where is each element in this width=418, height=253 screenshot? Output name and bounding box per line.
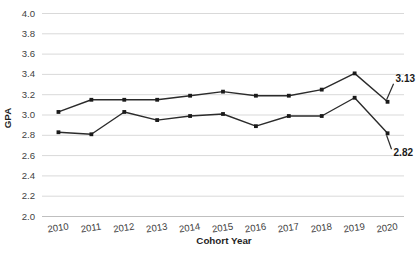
y-axis-tick-label: 2.8 [22,129,35,140]
data-point-marker [89,98,93,102]
x-axis-tick-label: 2014 [178,221,201,235]
data-point-marker [320,114,324,118]
data-point-marker [254,124,258,128]
x-axis-tick-label: 2020 [376,221,399,235]
annotation-leader-line [387,84,394,100]
data-point-marker [155,98,159,102]
y-axis-tick-label: 2.0 [22,211,35,222]
y-axis-tick-label: 2.2 [22,190,35,201]
x-axis-tick-label: 2011 [80,221,102,235]
y-axis-tick-label: 2.6 [22,150,35,161]
x-axis-tick-label: 2015 [211,221,234,235]
data-point-marker [221,90,225,94]
x-axis-tick-label: 2017 [277,221,300,235]
y-axis-tick-label: 3.0 [22,109,35,120]
data-point-marker [320,88,324,92]
data-point-marker [353,96,357,100]
y-axis-tick-label: 4.0 [22,8,35,19]
y-axis-tick-label: 2.4 [22,170,36,181]
data-point-marker [353,71,357,75]
data-point-marker [57,110,61,114]
data-point-marker [89,132,93,136]
x-axis-tick-label: 2013 [145,221,168,235]
data-series-group [57,71,390,136]
data-point-marker [254,94,258,98]
data-point-marker [221,112,225,116]
x-axis-tick-labels: 2010201120122013201420152016201720182019… [47,221,399,235]
data-point-marker [57,130,61,134]
x-axis-tick-label: 2018 [310,221,333,235]
chart-canvas: 4.03.83.63.43.23.02.82.62.42.22.0 201020… [0,0,418,253]
data-point-marker [287,94,291,98]
data-point-marker [386,131,390,135]
data-point-marker [122,98,126,102]
y-axis-tick-labels: 4.03.83.63.43.23.02.82.62.42.22.0 [22,8,36,222]
y-axis-tick-label: 3.8 [22,28,35,39]
x-axis-tick-label: 2012 [112,221,135,235]
y-axis-tick-label: 3.4 [22,68,36,79]
gpa-by-cohort-year-line-chart: 4.03.83.63.43.23.02.82.62.42.22.0 201020… [0,0,418,253]
data-point-marker [188,94,192,98]
lower-endpoint-label: 2.82 [394,147,414,158]
y-axis-tick-label: 3.2 [22,89,35,100]
data-point-marker [122,110,126,114]
data-point-marker [287,114,291,118]
x-axis-tick-label: 2010 [47,221,70,235]
x-axis-tick-label: 2016 [244,221,267,235]
y-axis-tick-label: 3.6 [22,48,35,59]
upper-endpoint-label: 3.13 [396,73,416,84]
data-point-marker [155,118,159,122]
annotation-leader-line [387,135,392,149]
series-line-lower-series [58,98,387,135]
x-axis-title: Cohort Year [196,235,252,246]
x-axis-tick-label: 2019 [343,221,366,235]
y-axis-title: GPA [2,108,13,129]
data-label-annotations: 3.132.82 [387,73,416,157]
data-point-marker [188,114,192,118]
data-point-marker [386,100,390,104]
